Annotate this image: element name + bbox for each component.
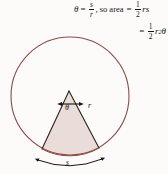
so-area-text: so area [100, 5, 124, 14]
one-half-coefficient-1: 1 2 [135, 1, 141, 18]
fraction-denominator-r: r [89, 9, 94, 18]
fraction-numerator-s: s [89, 1, 94, 9]
radius-label: r [88, 101, 91, 110]
arc-length-label: s [66, 158, 69, 167]
theta-symbol: θ [74, 5, 78, 14]
formula-line-2: = 1 2 r 2 θ [74, 23, 168, 40]
formula-line-1: θ = s r , so area = 1 2 rs [74, 1, 168, 18]
equals-sign-1: = [80, 5, 85, 14]
theta-symbol-2: θ [162, 27, 166, 36]
equals-sign-3: = [139, 27, 144, 36]
s-over-r-fraction: s r [89, 1, 94, 18]
coef-denominator-2: 2 [148, 31, 154, 40]
geometry-figure: θ = s r , so area = 1 2 rs = 1 2 r 2 θ [0, 0, 168, 174]
comma-separator: , [95, 5, 97, 14]
formula-block: θ = s r , so area = 1 2 rs = 1 2 r 2 θ [74, 1, 168, 40]
equals-sign-2: = [127, 5, 132, 14]
one-half-coefficient-2: 1 2 [148, 23, 154, 40]
coef-denominator-1: 2 [135, 9, 141, 18]
coef-numerator-2: 1 [148, 23, 154, 31]
coef-numerator-1: 1 [135, 1, 141, 9]
arc-length-arrow [38, 159, 102, 166]
rs-expression: rs [142, 5, 149, 14]
theta-angle-label: θ [65, 103, 69, 112]
